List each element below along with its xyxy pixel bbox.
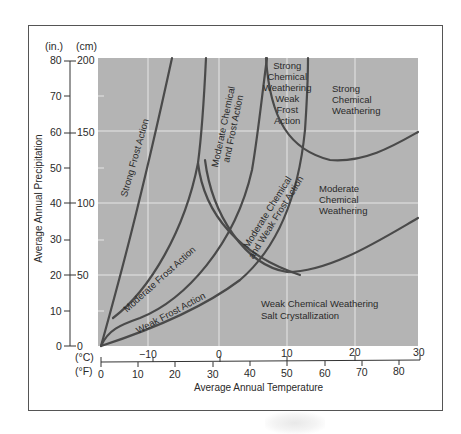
y-tick-in-60: 60 xyxy=(50,127,62,138)
region-label-line: Weak xyxy=(263,93,311,104)
region-label-line: Weathering xyxy=(263,82,311,93)
region-label-line: Salt Crystallization xyxy=(261,310,378,322)
x-tick-f-40: 40 xyxy=(244,368,256,379)
y-tick-in-20: 20 xyxy=(50,270,62,281)
region-label-line: Weathering xyxy=(319,205,367,216)
x-tick-f-60: 60 xyxy=(319,368,331,379)
region-moderate-chemical-weathering: Moderate Chemical Weathering xyxy=(319,183,367,216)
region-label-line: Chemical xyxy=(263,71,311,82)
y-axis xyxy=(64,61,76,346)
y-unit-inches: (in.) xyxy=(45,41,63,52)
x-tick-f-70: 70 xyxy=(356,367,368,378)
x-unit-celsius: (°C) xyxy=(75,352,94,363)
region-label-line: Chemical xyxy=(319,194,367,205)
region-label-line: Moderate xyxy=(319,183,367,194)
y-tick-cm-50: 50 xyxy=(77,270,89,281)
x-tick-f-0: 0 xyxy=(98,369,104,380)
y-axis-title: Average Annual Precipitation xyxy=(33,119,44,279)
x-unit-fahrenheit: (°F) xyxy=(75,366,93,377)
x-tick-c-10: 10 xyxy=(281,348,293,359)
x-tick-f-30: 30 xyxy=(207,369,219,380)
region-label-line: Frost xyxy=(263,104,311,115)
weathering-diagram-plot xyxy=(0,0,461,434)
x-tick-c-minus10: −10 xyxy=(139,349,157,360)
y-tick-in-50: 50 xyxy=(50,163,62,174)
y-unit-cm: (cm) xyxy=(76,41,97,52)
paper-smudge xyxy=(265,412,325,434)
y-tick-in-40: 40 xyxy=(50,198,62,209)
x-tick-c-20: 20 xyxy=(349,347,361,358)
y-tick-in-80: 80 xyxy=(50,55,62,66)
region-label-line: Strong xyxy=(263,60,311,71)
x-tick-f-10: 10 xyxy=(132,369,144,380)
region-strong-chemical-weak-frost: Strong Chemical Weathering Weak Frost Ac… xyxy=(263,60,311,126)
region-label-line: Action xyxy=(263,115,311,126)
x-tick-f-80: 80 xyxy=(393,366,405,377)
region-strong-chemical-weathering: Strong Chemical Weathering xyxy=(332,83,380,116)
region-weak-chemical-weathering-salt: Weak Chemical Weathering Salt Crystalliz… xyxy=(261,298,378,322)
y-tick-in-70: 70 xyxy=(50,91,62,102)
x-tick-f-50: 50 xyxy=(281,368,293,379)
region-label-line: Strong xyxy=(332,83,380,94)
y-tick-cm-200: 200 xyxy=(77,55,95,66)
x-tick-f-20: 20 xyxy=(169,369,181,380)
y-tick-cm-150: 150 xyxy=(77,127,95,138)
y-tick-cm-100: 100 xyxy=(77,198,95,209)
x-tick-c-0: 0 xyxy=(216,349,222,360)
x-tick-c-30: 30 xyxy=(413,347,425,358)
x-axis-title: Average Annual Temperature xyxy=(194,382,323,393)
y-tick-in-30: 30 xyxy=(50,234,62,245)
region-label-line: Chemical xyxy=(332,94,380,105)
y-tick-in-0: 0 xyxy=(56,341,62,352)
y-tick-in-10: 10 xyxy=(50,306,62,317)
region-label-line: Weathering xyxy=(332,105,380,116)
region-label-line: Weak Chemical Weathering xyxy=(261,298,378,310)
